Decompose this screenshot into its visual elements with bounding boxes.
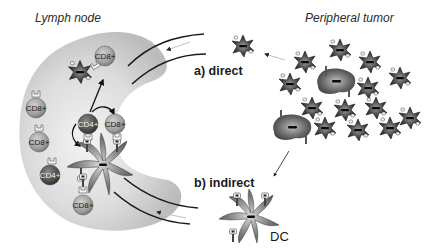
- svg-text:CD4+: CD4+: [78, 120, 99, 129]
- tcr-cd8: [113, 134, 121, 140]
- lymph-node-label: Lymph node: [35, 11, 101, 25]
- svg-text:CD8+: CD8+: [29, 138, 50, 147]
- migrating-tumor-cell: [232, 35, 254, 57]
- migration-arrow: [265, 54, 285, 60]
- uptake-arrow: [274, 151, 289, 176]
- svg-text:CD8+: CD8+: [26, 104, 47, 113]
- svg-text:CD8+: CD8+: [95, 52, 116, 61]
- svg-text:CD8+: CD8+: [105, 120, 126, 129]
- peripheral-tumor-cluster: [273, 39, 421, 144]
- peripheral-tumor-label: Peripheral tumor: [305, 11, 395, 25]
- dendritic-cell-label: DC: [270, 229, 289, 244]
- svg-text:CD8+: CD8+: [73, 201, 94, 210]
- cd8-cell-center: CD8+: [105, 114, 126, 134]
- indirect-pathway-label: b) indirect: [194, 176, 255, 190]
- svg-text:CD4+: CD4+: [40, 171, 61, 180]
- direct-pathway-label: a) direct: [194, 64, 243, 78]
- diagram-canvas: Lymph node Peripheral tumor a) direct b)…: [0, 0, 436, 252]
